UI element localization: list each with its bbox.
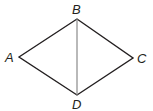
vertex-label-a: A xyxy=(4,50,14,65)
quadrilateral-abcd xyxy=(19,19,133,95)
vertex-label-d: D xyxy=(72,97,81,111)
vertex-label-b: B xyxy=(72,2,81,17)
vertex-label-c: C xyxy=(137,51,147,66)
rhombus-diagram: B A C D xyxy=(0,0,153,111)
